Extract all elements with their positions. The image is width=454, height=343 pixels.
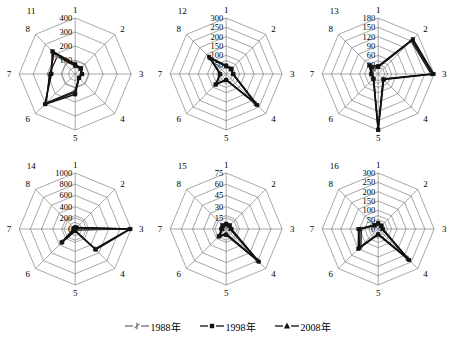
- axis-label-8: 8: [177, 179, 182, 189]
- tick-label: 75: [215, 168, 224, 178]
- axis-label-7: 7: [7, 69, 12, 79]
- axis-label-6: 6: [177, 114, 182, 124]
- panel-number: 13: [329, 6, 339, 16]
- axis-label-4: 4: [423, 114, 428, 124]
- axis-label-8: 8: [177, 24, 182, 34]
- axis-label-4: 4: [120, 114, 125, 124]
- axis-label-6: 6: [177, 269, 182, 279]
- axis-label-4: 4: [423, 269, 428, 279]
- radar-panel-15: 015304560751234567815: [151, 155, 302, 310]
- tick-label: 60: [215, 179, 224, 189]
- panel-number: 12: [178, 6, 187, 16]
- radar-tick-labels: 306090120150180: [362, 13, 375, 70]
- axis-label-5: 5: [224, 288, 229, 298]
- tick-label: 200: [362, 187, 375, 197]
- panel-number: 11: [27, 6, 36, 16]
- panel-number: 15: [178, 161, 188, 171]
- axis-label-7: 7: [158, 69, 163, 79]
- tick-label: 600: [59, 190, 72, 200]
- axis-label-1: 1: [376, 160, 381, 170]
- axis-label-2: 2: [423, 179, 428, 189]
- tick-label: 150: [362, 196, 375, 206]
- axis-label-3: 3: [139, 69, 144, 79]
- axis-label-4: 4: [120, 269, 125, 279]
- legend-item-2008年: 2008年: [274, 319, 331, 334]
- tick-label: 180: [362, 13, 375, 23]
- axis-label-7: 7: [309, 69, 314, 79]
- radar-panel-14: 020040060080010001234567814: [0, 155, 151, 310]
- radar-plot-11: 1002003004001234567811: [0, 0, 151, 155]
- tick-label: 15: [215, 213, 224, 223]
- radar-axis-spokes: [322, 173, 434, 285]
- axis-label-3: 3: [442, 69, 447, 79]
- tick-label: 1000: [55, 168, 72, 178]
- radar-panel-11: 1002003004001234567811: [0, 0, 151, 155]
- radar-plot-15: 015304560751234567815: [151, 155, 302, 310]
- legend-label: 1988年: [151, 319, 181, 334]
- square-marker: [199, 321, 225, 331]
- axis-label-6: 6: [328, 269, 333, 279]
- axis-label-8: 8: [26, 179, 31, 189]
- axis-label-3: 3: [290, 69, 295, 79]
- axis-label-4: 4: [272, 269, 277, 279]
- legend-label: 1998年: [226, 319, 256, 334]
- tick-label: 400: [59, 202, 72, 212]
- radar-panel-16: 0501001502002503001234567816: [303, 155, 454, 310]
- chart-legend: 1988年1998年2008年: [0, 313, 454, 339]
- axis-label-4: 4: [272, 114, 277, 124]
- axis-label-5: 5: [376, 133, 381, 143]
- tick-label: 400: [59, 13, 72, 23]
- radar-panel-12: 501001502002503001234567812: [151, 0, 302, 155]
- tick-label: 60: [366, 50, 375, 60]
- tick-label: 90: [366, 41, 375, 51]
- axis-label-7: 7: [7, 224, 12, 234]
- axis-label-2: 2: [272, 179, 277, 189]
- axis-label-8: 8: [26, 24, 31, 34]
- tick-label: 300: [362, 168, 375, 178]
- axis-label-5: 5: [73, 288, 78, 298]
- axis-label-7: 7: [309, 224, 314, 234]
- axis-label-3: 3: [442, 224, 447, 234]
- legend-label: 2008年: [301, 319, 331, 334]
- tick-label: 800: [59, 179, 72, 189]
- axis-label-7: 7: [158, 224, 163, 234]
- axis-label-2: 2: [272, 24, 277, 34]
- radar-plot-14: 020040060080010001234567814: [0, 155, 151, 310]
- radar-plot-16: 0501001502002503001234567816: [303, 155, 454, 310]
- axis-label-1: 1: [73, 5, 78, 15]
- axis-label-8: 8: [328, 24, 333, 34]
- radar-axis-spokes: [19, 18, 131, 130]
- axis-label-1: 1: [224, 5, 229, 15]
- tick-label: 300: [59, 27, 72, 37]
- cross-tick-marker: [124, 321, 150, 331]
- tick-label: 250: [211, 22, 224, 32]
- tick-label: 200: [211, 32, 224, 42]
- tick-label: 200: [59, 213, 72, 223]
- radar-axis-spokes: [170, 173, 282, 285]
- axis-label-2: 2: [423, 24, 428, 34]
- axis-label-3: 3: [139, 224, 144, 234]
- axis-label-2: 2: [120, 24, 125, 34]
- tick-label: 45: [215, 190, 224, 200]
- tick-label: 100: [362, 205, 375, 215]
- radar-axis-spokes: [322, 18, 434, 130]
- axis-label-2: 2: [120, 179, 125, 189]
- legend-item-1988年: 1988年: [124, 319, 181, 334]
- axis-label-8: 8: [328, 179, 333, 189]
- radar-chart-figure: 1002003004001234567811501001502002503001…: [0, 0, 454, 343]
- axis-label-5: 5: [376, 288, 381, 298]
- radar-plot-12: 501001502002503001234567812: [151, 0, 302, 155]
- tick-label: 120: [362, 32, 375, 42]
- triangle-marker: [274, 321, 300, 331]
- axis-label-6: 6: [26, 269, 31, 279]
- legend-item-1998年: 1998年: [199, 319, 256, 334]
- chart-panel-grid: 1002003004001234567811501001502002503001…: [0, 0, 454, 310]
- radar-plot-13: 3060901201501801234567813: [303, 0, 454, 155]
- tick-label: 150: [362, 22, 375, 32]
- axis-label-3: 3: [290, 224, 295, 234]
- axis-label-6: 6: [26, 114, 31, 124]
- axis-label-5: 5: [224, 133, 229, 143]
- axis-label-1: 1: [376, 5, 381, 15]
- radar-panel-13: 3060901201501801234567813: [303, 0, 454, 155]
- tick-label: 200: [59, 41, 72, 51]
